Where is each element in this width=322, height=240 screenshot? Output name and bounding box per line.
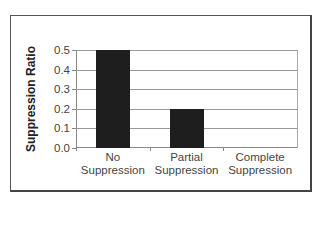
x-tick-label-line: Complete <box>220 151 300 164</box>
y-tick <box>72 89 76 90</box>
x-tick-label-line: Suppression <box>73 164 153 177</box>
y-tick-label: 0.3 <box>46 83 70 95</box>
plot-area: 0.00.10.20.30.40.5 <box>76 50 298 148</box>
y-tick-label: 0.0 <box>46 142 70 154</box>
y-tick <box>72 148 76 149</box>
y-tick-label: 0.5 <box>46 44 70 56</box>
x-tick-label: NoSuppression <box>73 151 153 177</box>
x-tick-label-line: Suppression <box>220 164 300 177</box>
x-tick-label: PartialSuppression <box>147 151 227 177</box>
x-tick-label: CompleteSuppression <box>220 151 300 177</box>
y-tick <box>72 109 76 110</box>
x-tick-label-line: Suppression <box>147 164 227 177</box>
y-axis <box>76 50 77 151</box>
y-tick <box>72 50 76 51</box>
x-tick-label-line: No <box>73 151 153 164</box>
y-axis-label: Suppression Ratio <box>24 46 38 152</box>
bar-no-suppression <box>96 50 130 148</box>
y-tick <box>72 128 76 129</box>
x-tick-label-line: Partial <box>147 151 227 164</box>
y-tick-label: 0.4 <box>46 64 70 76</box>
bar-partial-suppression <box>170 109 204 148</box>
y-tick <box>72 70 76 71</box>
y-tick-label: 0.1 <box>46 122 70 134</box>
y-tick-label: 0.2 <box>46 103 70 115</box>
